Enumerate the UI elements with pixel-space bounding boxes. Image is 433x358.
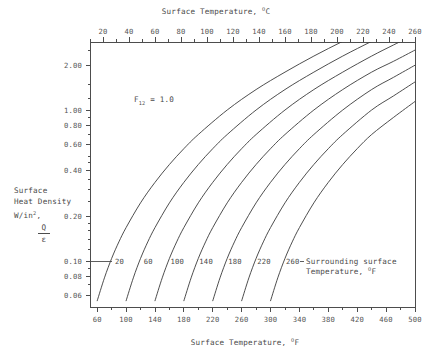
bottom-axis-tick-label: 460 bbox=[379, 315, 393, 324]
bottom-axis-tick-label: 220 bbox=[206, 315, 220, 324]
bottom-axis-tick-label: 380 bbox=[322, 315, 336, 324]
surface-heat-density-chart: 20406080100120140160180200220240260Surfa… bbox=[0, 0, 433, 358]
top-axis-tick-label: 180 bbox=[304, 27, 318, 36]
top-axis-tick-label: 100 bbox=[200, 27, 214, 36]
curve-label-140: 140 bbox=[199, 257, 213, 266]
y-axis-tick-label: 0.80 bbox=[64, 121, 82, 130]
top-axis-tick-label: 20 bbox=[98, 27, 107, 36]
f12-annotation: F12 = 1.0 bbox=[134, 95, 174, 106]
y-axis-tick-label: 0.20 bbox=[64, 212, 82, 221]
top-axis-title: Surface Temperature, OC bbox=[162, 6, 270, 16]
bottom-axis-tick-label: 420 bbox=[350, 315, 364, 324]
bottom-axis-tick-label: 500 bbox=[408, 315, 422, 324]
bottom-axis-tick-label: 180 bbox=[177, 315, 191, 324]
curve-label-60: 60 bbox=[144, 257, 153, 266]
top-axis-tick-label: 160 bbox=[278, 27, 292, 36]
bottom-axis-tick-label: 140 bbox=[148, 315, 162, 324]
top-axis-tick-label: 140 bbox=[252, 27, 266, 36]
top-axis-tick-label: 260 bbox=[408, 27, 422, 36]
y-axis-tick-label: 0.08 bbox=[64, 272, 82, 281]
bottom-axis-tick-label: 340 bbox=[293, 315, 307, 324]
plot-svg: 20406080100120140160180200220240260Surfa… bbox=[0, 0, 433, 358]
bottom-axis-tick-label: 260 bbox=[235, 315, 249, 324]
y-axis-title-line1: Surface bbox=[14, 186, 48, 195]
top-axis-tick-label: 220 bbox=[356, 27, 370, 36]
curve-label-100: 100 bbox=[170, 257, 184, 266]
curve-label-180: 180 bbox=[228, 257, 242, 266]
y-axis-tick-label: 0.10 bbox=[64, 257, 82, 266]
bottom-axis-tick-label: 60 bbox=[93, 315, 102, 324]
bottom-axis-tick-label: 100 bbox=[119, 315, 133, 324]
bottom-axis-tick-label: 300 bbox=[264, 315, 278, 324]
top-axis-tick-label: 60 bbox=[150, 27, 159, 36]
legend-annotation-line2: Temperature, OF bbox=[306, 266, 376, 276]
top-axis-tick-label: 120 bbox=[226, 27, 240, 36]
curve-label-220: 220 bbox=[257, 257, 271, 266]
y-axis-title-line2: Heat Density bbox=[14, 197, 71, 206]
top-axis-tick-label: 40 bbox=[124, 27, 133, 36]
curve-label-260: 260 bbox=[286, 257, 300, 266]
top-axis-tick-label: 200 bbox=[330, 27, 344, 36]
y-axis-title-units: W/in2, bbox=[14, 210, 41, 220]
y-axis-tick-label: 1.00 bbox=[64, 106, 82, 115]
y-axis-title-frac-numerator: Q bbox=[42, 223, 47, 232]
y-axis-tick-label: 0.60 bbox=[64, 140, 82, 149]
y-axis-tick-label: 2.00 bbox=[64, 61, 82, 70]
y-axis-tick-label: 0.06 bbox=[64, 291, 82, 300]
y-axis-title-frac-denominator: ε bbox=[42, 235, 47, 244]
legend-annotation-line1: Surrounding surface bbox=[306, 257, 397, 266]
top-axis-tick-label: 80 bbox=[176, 27, 185, 36]
y-axis-tick-label: 0.40 bbox=[64, 166, 82, 175]
top-axis-tick-label: 240 bbox=[382, 27, 396, 36]
bottom-axis-title: Surface Temperature, OF bbox=[191, 337, 300, 347]
curve-label-20: 20 bbox=[115, 257, 124, 266]
